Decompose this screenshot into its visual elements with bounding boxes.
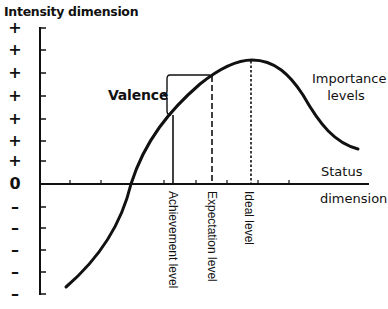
achievement-level-label: Achievement level: [166, 191, 180, 288]
y-tick-label-plus: +: [8, 42, 22, 58]
y-tick-label-plus: +: [8, 153, 22, 169]
y-tick-label-minus: –: [8, 242, 22, 258]
y-tick-label-minus: –: [8, 264, 22, 280]
y-tick-label-minus: –: [8, 199, 22, 215]
y-axis-title: Intensity dimension: [4, 4, 138, 19]
y-tick-label-zero: 0: [8, 176, 22, 192]
diagram-graphics: [0, 0, 388, 309]
valence-diagram: Intensity dimension + + + + + + + 0 – – …: [0, 0, 388, 309]
y-tick-label-plus: +: [8, 111, 22, 127]
expectation-level-label: Expectation level: [205, 191, 219, 282]
x-axis-label-status: Status: [321, 164, 362, 179]
importance-label-line1: Importance: [312, 70, 380, 87]
y-tick-label-plus: +: [8, 20, 22, 36]
y-tick-label-plus: +: [8, 65, 22, 81]
y-tick-label-minus: –: [8, 220, 22, 236]
y-tick-label-plus: +: [8, 133, 22, 149]
valence-label: Valence: [108, 87, 168, 103]
ideal-level-label: Ideal level: [242, 191, 256, 245]
importance-levels-label: Importance levels: [312, 70, 380, 104]
importance-label-line2: levels: [312, 87, 380, 104]
y-tick-label-minus: –: [8, 286, 22, 302]
y-tick-label-plus: +: [8, 88, 22, 104]
x-axis-label-dimension: dimension: [320, 191, 387, 206]
